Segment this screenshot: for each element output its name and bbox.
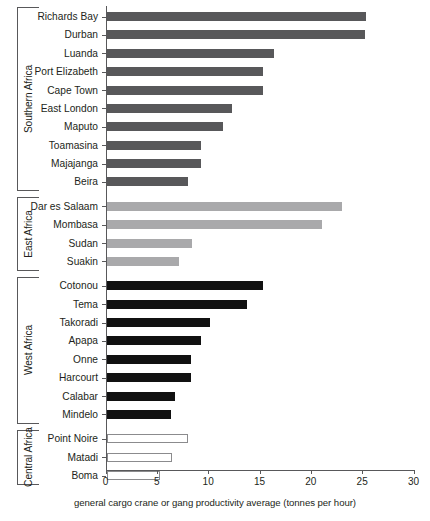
x-axis-tick — [106, 470, 107, 474]
bar — [107, 141, 201, 150]
bar — [107, 410, 172, 419]
y-axis-tick — [102, 206, 106, 207]
y-axis-tick — [102, 396, 106, 397]
x-axis-line: 051015202530 — [106, 470, 414, 471]
x-axis-tick — [260, 470, 261, 474]
x-axis-tick-label: 10 — [203, 476, 214, 487]
category-label: Mombasa — [0, 219, 102, 230]
x-axis-tick-label: 30 — [408, 476, 419, 487]
bar — [107, 373, 191, 382]
category-label: Richards Bay — [0, 11, 102, 22]
category-label: Apapa — [0, 335, 102, 346]
category-label: Port Elizabeth — [0, 66, 102, 77]
bar — [107, 30, 366, 39]
bar — [107, 239, 192, 248]
bar — [107, 49, 274, 58]
bar — [107, 202, 342, 211]
x-axis-tick — [157, 470, 158, 474]
bar — [107, 12, 367, 21]
bar — [107, 177, 188, 186]
bar — [107, 471, 160, 480]
y-axis-tick — [102, 439, 106, 440]
y-axis-tick — [102, 145, 106, 146]
category-label: Sudan — [0, 238, 102, 249]
bar — [107, 300, 248, 309]
bar — [107, 453, 173, 462]
category-label: Takoradi — [0, 317, 102, 328]
category-label: Calabar — [0, 391, 102, 402]
y-axis-tick — [102, 53, 106, 54]
y-axis-tick — [102, 127, 106, 128]
x-axis-tick — [311, 470, 312, 474]
bar — [107, 434, 188, 443]
x-axis-tick-label: 20 — [305, 476, 316, 487]
category-label: Harcourt — [0, 372, 102, 383]
y-axis-tick — [102, 414, 106, 415]
category-label: Matadi — [0, 452, 102, 463]
category-label: Onne — [0, 354, 102, 365]
bar — [107, 392, 176, 401]
y-axis-tick — [102, 286, 106, 287]
x-axis-tick-label: 5 — [154, 476, 160, 487]
y-axis-tick — [102, 359, 106, 360]
group-label: West Africa — [23, 325, 34, 375]
bar — [107, 281, 263, 290]
y-axis-tick — [102, 225, 106, 226]
x-axis-tick — [362, 470, 363, 474]
x-axis-tick — [208, 470, 209, 474]
y-axis-tick — [102, 17, 106, 18]
x-axis-tick-label: 15 — [254, 476, 265, 487]
y-axis-tick — [102, 72, 106, 73]
x-axis-tick-label: 25 — [357, 476, 368, 487]
category-label: Majajanga — [0, 158, 102, 169]
category-label: Beira — [0, 176, 102, 187]
bar — [107, 220, 323, 229]
bar — [107, 67, 263, 76]
group-label: East Africa — [23, 210, 34, 258]
category-label: Luanda — [0, 48, 102, 59]
category-label: Suakin — [0, 256, 102, 267]
category-label: Mindelo — [0, 409, 102, 420]
bar — [107, 122, 223, 131]
y-axis-tick — [102, 90, 106, 91]
x-axis-tick-label: 0 — [103, 476, 109, 487]
y-axis-tick — [102, 35, 106, 36]
bar — [107, 86, 263, 95]
y-axis-tick — [102, 182, 106, 183]
bar — [107, 257, 180, 266]
y-axis-tick — [102, 457, 106, 458]
y-axis-tick — [102, 261, 106, 262]
y-axis-tick — [102, 323, 106, 324]
y-axis-tick — [102, 243, 106, 244]
y-axis-tick — [102, 304, 106, 305]
bar — [107, 318, 211, 327]
category-label: Toamasina — [0, 140, 102, 151]
category-label: Dar es Salaam — [0, 201, 102, 212]
category-label: Boma — [0, 470, 102, 481]
category-label: Cotonou — [0, 280, 102, 291]
category-label: Point Noire — [0, 433, 102, 444]
bar — [107, 104, 232, 113]
x-axis-title: general cargo crane or gang productivity… — [0, 497, 430, 508]
bar — [107, 355, 191, 364]
x-axis-tick — [414, 470, 415, 474]
category-label: Cape Town — [0, 85, 102, 96]
y-axis-tick — [102, 108, 106, 109]
bar — [107, 159, 201, 168]
y-axis-tick — [102, 341, 106, 342]
plot-area — [106, 6, 414, 470]
y-axis-tick — [102, 378, 106, 379]
y-axis-tick — [102, 164, 106, 165]
bar — [107, 336, 201, 345]
category-label: Durban — [0, 29, 102, 40]
category-label: Tema — [0, 299, 102, 310]
horizontal-bar-chart: Southern AfricaEast AfricaWest AfricaCen… — [0, 0, 430, 521]
category-label: Maputo — [0, 121, 102, 132]
category-label: East London — [0, 103, 102, 114]
